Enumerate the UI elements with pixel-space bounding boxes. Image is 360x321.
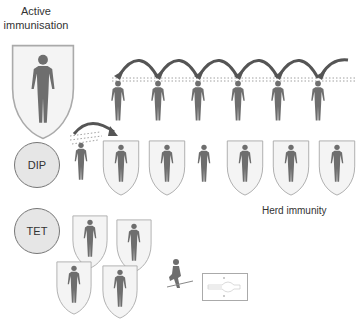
tet-individual-protection [54, 215, 154, 321]
herd-immunity-label: Herd immunity [262, 205, 326, 216]
title-line1: Active [0, 4, 72, 18]
dip-vaccine-circle: DIP [14, 142, 60, 188]
tet-label: TET [27, 225, 48, 237]
dip-row-herd-immunity [60, 120, 360, 200]
bacterium-diagram-icon [202, 273, 248, 301]
top-row-transmission [100, 30, 360, 130]
injured-person-icon [165, 258, 195, 294]
diagram-title: Active immunisation [0, 4, 72, 32]
title-line2: immunisation [0, 18, 72, 32]
dip-label: DIP [28, 159, 46, 171]
